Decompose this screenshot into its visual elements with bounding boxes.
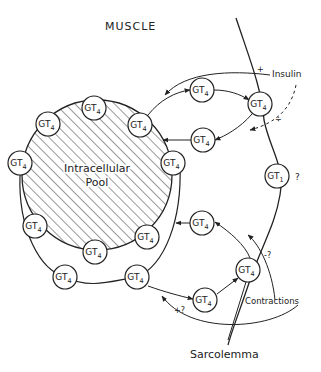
insulin-minus: ÷ bbox=[275, 115, 282, 124]
transporter-pool-upper-right: GT4 bbox=[128, 113, 152, 137]
transporter-membrane-bottom: GT4 bbox=[236, 258, 260, 282]
transporter-loop-left: GT4 bbox=[53, 265, 77, 289]
pool-label-line1: Intracellular bbox=[64, 162, 130, 175]
insulin-label: Insulin bbox=[272, 69, 301, 79]
arrow-loop-to-transit bbox=[148, 286, 193, 299]
transporter-transit-bottom: GT4 bbox=[193, 288, 217, 312]
transporter-pool-lower-left: GT4 bbox=[23, 214, 47, 238]
transporter-pool-upper-left: GT4 bbox=[36, 112, 60, 136]
gt1-question: ? bbox=[295, 172, 300, 182]
contractions-plus-q: +? bbox=[174, 306, 185, 315]
arrow-pool-to-transit bbox=[148, 90, 190, 115]
transporter-pool-left: GT4 bbox=[8, 151, 32, 175]
arrow-membrane-bottom-up bbox=[215, 222, 250, 258]
transporter-pool-top: GT4 bbox=[82, 96, 106, 120]
diagram-title: MUSCLE bbox=[105, 20, 156, 33]
contractions-label: Contractions bbox=[245, 296, 300, 306]
pool-label-line2: Pool bbox=[86, 176, 109, 189]
arrow-transit-to-membrane-bottom bbox=[217, 278, 238, 294]
transporter-return-top: GT4 bbox=[191, 128, 215, 152]
transporter-membrane-top: GT4 bbox=[248, 92, 272, 116]
arrow-membrane-to-return bbox=[215, 114, 252, 140]
insulin-plus: + bbox=[257, 65, 264, 74]
transporter-transit-top: GT4 bbox=[190, 78, 214, 102]
transporter-pool-bottom: GT4 bbox=[83, 240, 107, 264]
transporter-loop-right: GT4 bbox=[125, 265, 149, 289]
contractions-minus-q: -? bbox=[264, 251, 271, 260]
sarcolemma-label: Sarcolemma bbox=[190, 348, 259, 361]
transporter-pool-right: GT4 bbox=[161, 151, 185, 175]
transporter-return-bottom: GT4 bbox=[190, 211, 214, 235]
sarcolemma-pointer bbox=[228, 282, 246, 340]
transporter-pool-lower-right: GT4 bbox=[135, 225, 159, 249]
arrow-transit-to-membrane bbox=[214, 90, 249, 100]
transporter-membrane-gt1: GT1 bbox=[265, 164, 289, 188]
glucose-transporter-diagram: MUSCLE Insulin + ÷ ? -? +? Contractions … bbox=[0, 0, 321, 372]
